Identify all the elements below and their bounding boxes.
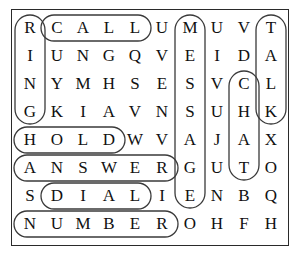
grid-letter: R xyxy=(149,154,175,182)
grid-letter: G xyxy=(17,98,43,126)
grid-letter: L xyxy=(70,126,96,154)
grid-letter: U xyxy=(44,42,70,70)
grid-letter: C xyxy=(231,70,257,98)
grid-letter: H xyxy=(96,70,122,98)
grid-letter: L xyxy=(122,14,148,42)
grid-letter: S xyxy=(70,154,96,182)
grid-letter: A xyxy=(258,42,284,70)
grid-letter: N xyxy=(44,154,70,182)
grid-letter: S xyxy=(122,70,148,98)
grid-letter: G xyxy=(177,154,203,182)
grid-letter: W xyxy=(96,154,122,182)
grid-letter: J xyxy=(204,126,230,154)
grid-letter: N xyxy=(70,42,96,70)
grid-letter: M xyxy=(70,210,96,238)
grid-letter: O xyxy=(44,126,70,154)
grid-letter: G xyxy=(96,42,122,70)
grid-letter: A xyxy=(96,98,122,126)
grid-letter: B xyxy=(231,182,257,210)
grid-letter: S xyxy=(17,182,43,210)
grid-letter: O xyxy=(258,154,284,182)
grid-letter: L xyxy=(122,182,148,210)
grid-letter: X xyxy=(258,126,284,154)
grid-letter: U xyxy=(204,98,230,126)
grid-letter: Q xyxy=(258,182,284,210)
grid-letter: O xyxy=(177,210,203,238)
grid-letter: D xyxy=(96,126,122,154)
grid-letter: Y xyxy=(44,70,70,98)
grid-letter: N xyxy=(204,182,230,210)
grid-letter: H xyxy=(231,98,257,126)
grid-letter: I xyxy=(70,182,96,210)
grid-letter: U xyxy=(204,154,230,182)
grid-letter: Q xyxy=(122,42,148,70)
grid-letter: L xyxy=(96,14,122,42)
grid-letter: C xyxy=(44,14,70,42)
grid-letter: E xyxy=(149,70,175,98)
grid-letter: E xyxy=(177,182,203,210)
grid-letter: H xyxy=(204,210,230,238)
grid-letter: H xyxy=(258,210,284,238)
grid-letter: D xyxy=(44,182,70,210)
grid-letter: K xyxy=(258,98,284,126)
word-search-frame: RCALLUMUVTIUNGQVEIDANYMHSESVCLGKIAVNSUHK… xyxy=(11,9,289,246)
grid-letter: A xyxy=(177,126,203,154)
grid-letter: I xyxy=(204,42,230,70)
grid-letter: S xyxy=(177,98,203,126)
grid-letter: V xyxy=(231,14,257,42)
grid-letter: V xyxy=(149,42,175,70)
grid-letter: U xyxy=(204,14,230,42)
grid-letter: S xyxy=(177,70,203,98)
grid-letter: T xyxy=(258,14,284,42)
letter-grid: RCALLUMUVTIUNGQVEIDANYMHSESVCLGKIAVNSUHK… xyxy=(12,10,288,245)
grid-letter: A xyxy=(17,154,43,182)
grid-letter: I xyxy=(17,42,43,70)
grid-letter: B xyxy=(96,210,122,238)
grid-letter: E xyxy=(122,210,148,238)
grid-letter: M xyxy=(70,70,96,98)
grid-letter: U xyxy=(44,210,70,238)
grid-letter: R xyxy=(17,14,43,42)
grid-letter: D xyxy=(231,42,257,70)
grid-letter: V xyxy=(149,126,175,154)
grid-letter: E xyxy=(122,154,148,182)
grid-letter: I xyxy=(70,98,96,126)
grid-letter: N xyxy=(17,70,43,98)
grid-letter: A xyxy=(96,182,122,210)
grid-letter: F xyxy=(231,210,257,238)
grid-letter: T xyxy=(231,154,257,182)
grid-letter: H xyxy=(17,126,43,154)
grid-letter: N xyxy=(149,98,175,126)
grid-letter: N xyxy=(17,210,43,238)
grid-letter: A xyxy=(231,126,257,154)
grid-letter: L xyxy=(258,70,284,98)
grid-letter: A xyxy=(70,14,96,42)
grid-letter: V xyxy=(204,70,230,98)
grid-letter: W xyxy=(122,126,148,154)
grid-letter: M xyxy=(177,14,203,42)
grid-letter: U xyxy=(149,14,175,42)
grid-letter: K xyxy=(44,98,70,126)
grid-letter: E xyxy=(177,42,203,70)
grid-letter: V xyxy=(122,98,148,126)
grid-letter: I xyxy=(149,182,175,210)
grid-letter: R xyxy=(149,210,175,238)
